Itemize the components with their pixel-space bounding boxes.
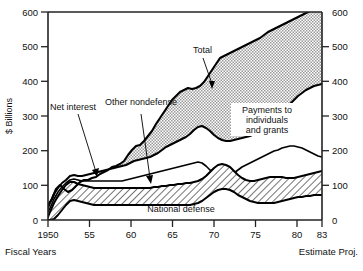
footer-fiscal-years: Fiscal Years bbox=[5, 246, 56, 257]
x-label-1950: 1950 bbox=[37, 229, 58, 240]
x-label-65: 65 bbox=[167, 229, 178, 240]
y-label-right-300: 300 bbox=[332, 111, 348, 122]
annotation-net-interest: Net interest bbox=[50, 102, 97, 112]
chart-container: 600 500 400 300 200 100 0 600 500 400 30… bbox=[0, 0, 363, 271]
y-label-300: 300 bbox=[22, 111, 38, 122]
x-label-80: 80 bbox=[292, 229, 303, 240]
y-label-200: 200 bbox=[22, 145, 38, 156]
federal-outlays-stacked-area-chart: 600 500 400 300 200 100 0 600 500 400 30… bbox=[0, 0, 363, 271]
y-label-500: 500 bbox=[22, 41, 38, 52]
y-label-right-0: 0 bbox=[332, 215, 337, 226]
annotation-payments-line-2: individuals bbox=[246, 115, 289, 125]
y-axis-title: $ Billions bbox=[4, 97, 14, 134]
x-label-55: 55 bbox=[84, 229, 95, 240]
y-label-right-600: 600 bbox=[332, 7, 348, 18]
y-label-0: 0 bbox=[33, 215, 38, 226]
y-label-400: 400 bbox=[22, 76, 38, 87]
footer-estimate-proj: Estimate Proj. bbox=[299, 246, 358, 257]
y-label-right-200: 200 bbox=[332, 145, 348, 156]
y-label-600: 600 bbox=[22, 7, 38, 18]
annotation-payments-to-individuals-and-grants: Payments to individuals and grants bbox=[231, 103, 304, 136]
x-label-83: 83 bbox=[317, 229, 328, 240]
y-label-right-100: 100 bbox=[332, 180, 348, 191]
x-label-60: 60 bbox=[126, 229, 137, 240]
annotation-total: Total bbox=[193, 45, 212, 55]
annotation-payments-line-1: Payments to bbox=[242, 105, 292, 115]
y-label-right-400: 400 bbox=[332, 76, 348, 87]
x-label-75: 75 bbox=[250, 229, 261, 240]
annotation-other-nondefense-line1: Other nondefense bbox=[105, 97, 177, 107]
annotation-payments-line-3: and grants bbox=[246, 125, 289, 135]
annotation-national-defense: National defense bbox=[147, 204, 215, 214]
y-label-100: 100 bbox=[22, 180, 38, 191]
x-label-70: 70 bbox=[209, 229, 220, 240]
y-label-right-500: 500 bbox=[332, 41, 348, 52]
